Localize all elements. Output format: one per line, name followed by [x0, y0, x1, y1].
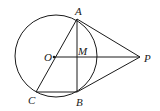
label-b: B: [76, 96, 83, 108]
tangent-pb: [77, 57, 140, 92]
label-p: P: [143, 52, 151, 64]
diameter-ac: [36, 19, 77, 92]
center-dot: [53, 56, 56, 59]
label-o: O: [44, 51, 52, 63]
label-a: A: [74, 5, 82, 17]
label-c: C: [28, 94, 36, 106]
label-m: M: [77, 45, 88, 57]
geometry-diagram: A B C O M P: [0, 0, 160, 111]
